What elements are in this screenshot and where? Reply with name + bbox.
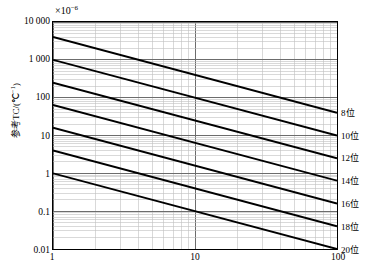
- y-tick-label: 0.01: [2, 245, 50, 255]
- y-tick-label: 100: [2, 92, 50, 102]
- multiplier-base: ×10: [55, 5, 71, 16]
- y-axis-tick-labels: 10 0001 0001001010.10.01: [0, 21, 50, 250]
- x-tick-label: 1: [50, 252, 55, 263]
- chart-root: ×10−6 参考TC/(℃−1) 10 0001 0001001010.10.0…: [0, 0, 375, 276]
- series-line-10bit: [53, 60, 337, 136]
- series-line-12bit: [53, 83, 337, 159]
- axis-multiplier: ×10−6: [55, 3, 78, 16]
- y-tick-label: 10: [2, 131, 50, 141]
- plot-area: [52, 21, 338, 250]
- multiplier-exponent: −6: [71, 4, 78, 12]
- legend-label: 16位: [341, 199, 359, 209]
- y-tick-label: 1: [2, 169, 50, 179]
- legend-label: 14位: [341, 176, 359, 186]
- data-series-lines: [53, 22, 337, 249]
- series-line-16bit: [53, 128, 337, 204]
- legend-label: 10位: [341, 131, 359, 141]
- legend-label: 12位: [341, 153, 359, 163]
- legend-label: 8位: [341, 108, 355, 118]
- legend-label: 18位: [341, 222, 359, 232]
- series-line-8bit: [53, 37, 337, 113]
- y-tick-label: 0.1: [2, 207, 50, 217]
- legend-label: 20位: [341, 245, 359, 255]
- series-line-18bit: [53, 151, 337, 227]
- y-tick-label: 1 000: [2, 54, 50, 64]
- x-axis-tick-labels: 110100: [52, 252, 338, 268]
- series-line-20bit: [53, 173, 337, 249]
- series-line-14bit: [53, 105, 337, 181]
- y-tick-label: 10 000: [2, 16, 50, 26]
- series-legend: 8位10位12位14位16位18位20位: [341, 21, 375, 256]
- x-tick-label: 10: [190, 252, 200, 263]
